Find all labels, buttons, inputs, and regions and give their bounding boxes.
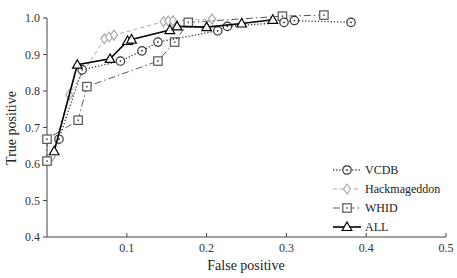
x-tick-label: 0.3 — [279, 241, 294, 255]
x-tick-label: 0.4 — [359, 241, 374, 255]
diamond-marker — [209, 14, 216, 24]
series-whid — [43, 11, 328, 165]
circle-marker-dot — [81, 69, 83, 71]
square-marker-dot — [346, 207, 348, 209]
legend-item-whid: WHID — [333, 201, 398, 215]
y-tick-label: 0.6 — [25, 157, 40, 171]
legend-label: WHID — [365, 201, 398, 215]
legend-item-vcdb: VCDB — [333, 163, 398, 177]
roc-chart: 0.40.50.60.70.80.91.00.10.20.30.40.5 Fal… — [0, 0, 457, 278]
circle-marker-dot — [283, 21, 285, 23]
circle-marker-dot — [217, 30, 219, 32]
series-vcdb — [55, 16, 355, 143]
x-tick-label: 0.1 — [119, 241, 134, 255]
axes: 0.40.50.60.70.80.91.00.10.20.30.40.5 — [25, 11, 454, 255]
y-tick-label: 1.0 — [25, 11, 40, 25]
circle-marker-dot — [157, 41, 159, 43]
y-axis-title: True positive — [4, 91, 19, 165]
y-tick-label: 0.8 — [25, 84, 40, 98]
y-tick-label: 0.9 — [25, 48, 40, 62]
x-tick-label: 0.5 — [439, 241, 454, 255]
diamond-marker — [344, 184, 351, 194]
legend: VCDBHackmageddonWHIDALL — [333, 163, 440, 234]
legend-label: ALL — [365, 220, 388, 234]
square-marker-dot — [46, 160, 48, 162]
circle-marker-dot — [293, 20, 295, 22]
triangle-marker — [49, 146, 59, 155]
square-marker-dot — [187, 22, 189, 24]
x-tick-label: 0.2 — [199, 241, 214, 255]
square-marker-dot — [282, 15, 284, 17]
square-marker-dot — [86, 86, 88, 88]
legend-label: VCDB — [365, 163, 398, 177]
square-marker-dot — [157, 60, 159, 62]
y-tick-label: 0.4 — [25, 230, 40, 244]
y-tick-label: 0.5 — [25, 194, 40, 208]
y-tick-label: 0.7 — [25, 121, 40, 135]
x-axis-title: False positive — [207, 258, 284, 273]
legend-item-all: ALL — [333, 220, 388, 234]
series-layer — [43, 11, 355, 165]
circle-marker-dot — [350, 21, 352, 23]
square-marker-dot — [46, 138, 48, 140]
square-marker-dot — [174, 41, 176, 43]
legend-item-hackmageddon: Hackmageddon — [333, 182, 440, 196]
square-marker-dot — [323, 14, 325, 16]
circle-marker-dot — [141, 50, 143, 52]
circle-marker-dot — [346, 169, 348, 171]
legend-label: Hackmageddon — [365, 182, 440, 196]
circle-marker-dot — [120, 60, 122, 62]
square-marker-dot — [77, 119, 79, 121]
